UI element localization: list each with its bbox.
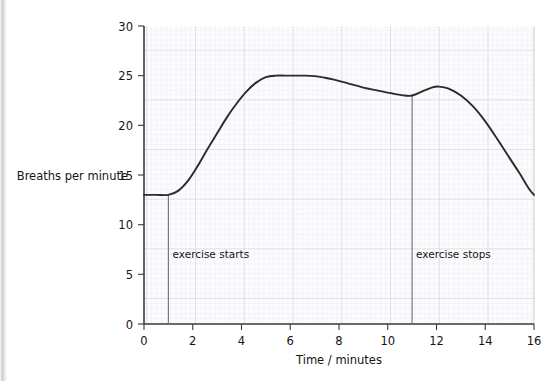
x-axis-ticks: 0 2 4 6 8 10 12 14 16 xyxy=(140,324,541,348)
y-tick-label-5: 5 xyxy=(126,268,133,282)
y-tick-label-0: 0 xyxy=(126,318,133,332)
x-tick-label-0: 0 xyxy=(140,334,147,348)
exercise-stops-label: exercise stops xyxy=(416,248,491,260)
y-tick-label-20: 20 xyxy=(118,119,133,133)
y-tick-label-10: 10 xyxy=(118,218,133,232)
breathing-rate-chart-figure: 30 25 20 15 10 5 0 0 2 4 xyxy=(0,0,560,381)
plot-gridlines xyxy=(144,26,534,324)
x-tick-label-6: 6 xyxy=(287,334,294,348)
chart-svg: 30 25 20 15 10 5 0 0 2 4 xyxy=(0,0,560,381)
x-tick-label-16: 16 xyxy=(527,334,542,348)
exercise-starts-label: exercise starts xyxy=(173,248,250,260)
x-axis-title: Time / minutes xyxy=(295,353,382,367)
x-tick-label-4: 4 xyxy=(238,334,245,348)
y-tick-label-25: 25 xyxy=(118,69,133,83)
x-tick-label-8: 8 xyxy=(335,334,342,348)
plot-area xyxy=(144,26,534,324)
y-axis-title: Breaths per minute xyxy=(17,169,128,183)
y-tick-label-30: 30 xyxy=(118,20,133,34)
x-tick-label-14: 14 xyxy=(478,334,493,348)
x-tick-label-2: 2 xyxy=(189,334,196,348)
x-tick-label-12: 12 xyxy=(429,334,444,348)
page-canvas: 30 25 20 15 10 5 0 0 2 4 xyxy=(0,0,560,381)
x-tick-label-10: 10 xyxy=(380,334,395,348)
